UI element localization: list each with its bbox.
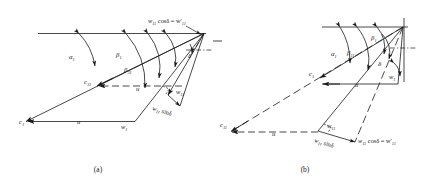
panel-a-caption: (a) <box>94 165 103 174</box>
panel-b-caption: (b) <box>301 165 310 174</box>
velocity-triangle-figure: c1 c31 w1 w11 u u α1 β1 β31 δ w11 sinδ w… <box>0 0 426 187</box>
canvas-background <box>0 0 426 187</box>
figure-canvas: c1 c31 w1 w11 u u α1 β1 β31 δ w11 sinδ w… <box>0 0 426 187</box>
